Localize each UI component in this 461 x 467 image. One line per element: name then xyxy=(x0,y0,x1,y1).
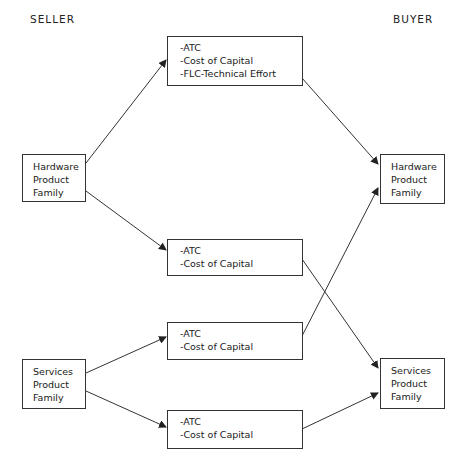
transfer-box-hw-to-svc: -ATC -Cost of Capital xyxy=(167,239,303,276)
buyer-hardware-product-family-box: Hardware Product Family xyxy=(380,154,445,204)
arrow-seller-hardware-to-mid-box-1 xyxy=(86,191,166,250)
arrow-bottom-box-to-buyer-services xyxy=(302,393,378,429)
arrow-seller-services-to-mid-box-2 xyxy=(86,337,166,373)
box-text: Product xyxy=(391,377,444,390)
transfer-box-hw-to-hw: -ATC -Cost of Capital -FLC-Technical Eff… xyxy=(167,36,303,86)
transfer-box-svc-to-svc: -ATC -Cost of Capital xyxy=(167,410,303,449)
buyer-services-product-family-box: Services Product Family xyxy=(380,358,445,409)
box-text: Family xyxy=(33,391,85,404)
box-text: Product xyxy=(391,173,444,186)
box-text: -ATC xyxy=(180,327,302,340)
box-text: Family xyxy=(33,186,85,199)
box-text: Hardware xyxy=(391,160,444,173)
box-text: -Cost of Capital xyxy=(180,257,302,270)
box-text: Services xyxy=(33,365,85,378)
transfer-box-svc-to-hw: -ATC -Cost of Capital xyxy=(167,322,303,360)
box-text: Services xyxy=(391,364,444,377)
box-text: Family xyxy=(391,390,444,403)
seller-hardware-product-family-box: Hardware Product Family xyxy=(22,154,86,202)
arrow-top-box-to-buyer-hardware xyxy=(302,78,378,164)
arrow-seller-services-to-bottom-box xyxy=(86,391,166,427)
box-text: -Cost of Capital xyxy=(180,54,302,67)
box-text: -ATC xyxy=(180,244,302,257)
box-text: Product xyxy=(33,173,85,186)
box-text: -Cost of Capital xyxy=(180,428,302,441)
box-text: -Cost of Capital xyxy=(180,340,302,353)
seller-services-product-family-box: Services Product Family xyxy=(22,359,86,409)
box-text: Family xyxy=(391,186,444,199)
box-text: -ATC xyxy=(180,41,302,54)
box-text: -FLC-Technical Effort xyxy=(180,67,302,80)
box-text: -ATC xyxy=(180,415,302,428)
arrow-seller-hardware-to-top-box xyxy=(86,60,166,163)
box-text: Product xyxy=(33,378,85,391)
box-text: Hardware xyxy=(33,160,85,173)
